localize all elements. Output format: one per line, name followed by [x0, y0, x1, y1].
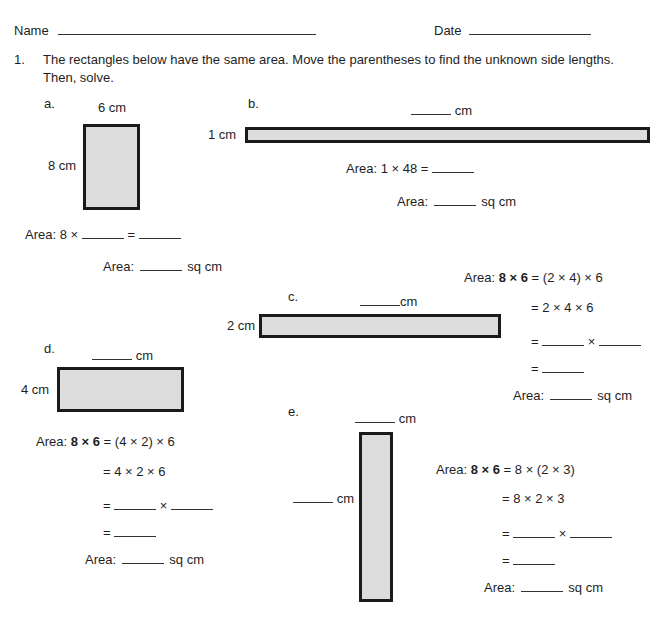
- part-d-line-4: =: [103, 524, 156, 541]
- part-e-blank-factor-2[interactable]: [570, 525, 612, 538]
- part-d-line1-rest: = (4 × 2) × 6: [104, 434, 175, 449]
- part-e-times: ×: [559, 526, 567, 541]
- part-b-area-eq: Area: 1 × 48 =: [346, 161, 428, 176]
- part-b-area-equation: Area: 1 × 48 =: [346, 160, 474, 177]
- date-label: Date: [434, 23, 461, 38]
- part-a-blank-factor[interactable]: [82, 226, 124, 239]
- part-e-area-label: Area:: [484, 580, 515, 595]
- part-c-blank-length[interactable]: [360, 293, 400, 306]
- part-a-blank-area[interactable]: [140, 258, 182, 271]
- part-b-left-side: 1 cm: [208, 127, 236, 143]
- part-c-top-side: cm: [360, 293, 417, 310]
- part-e-blank-width[interactable]: [355, 410, 395, 423]
- part-d-blank-area[interactable]: [122, 551, 164, 564]
- part-d-top-side: cm: [92, 347, 153, 364]
- part-a-area-answer: Area: sq cm: [103, 258, 222, 275]
- part-a-unit: sq cm: [187, 259, 222, 274]
- part-c-eq: =: [531, 334, 539, 349]
- part-d-line-3: = ×: [103, 497, 213, 514]
- part-d-blank-length[interactable]: [92, 347, 132, 360]
- name-field: Name: [14, 22, 316, 39]
- part-d-eq: =: [103, 498, 111, 513]
- part-e-eq: =: [502, 526, 510, 541]
- part-a-blank-product[interactable]: [139, 226, 181, 239]
- part-d-area-answer: Area: sq cm: [85, 551, 204, 568]
- part-e-blank-area[interactable]: [521, 579, 563, 592]
- part-c-eq-2: =: [531, 361, 539, 376]
- part-c-line-3: = ×: [531, 333, 641, 350]
- part-c-line1-rest: = (2 × 4) × 6: [532, 270, 603, 285]
- part-e-left-side: cm: [293, 490, 354, 507]
- part-e-line1-rest: = 8 × (2 × 3): [504, 462, 575, 477]
- part-a-left-side: 8 cm: [48, 158, 76, 174]
- part-c-blank-factor-1[interactable]: [542, 333, 584, 346]
- problem-number: 1.: [14, 52, 25, 68]
- part-c-blank-product[interactable]: [542, 360, 584, 373]
- part-d-area-label: Area:: [85, 552, 116, 567]
- part-e-blank-factor-1[interactable]: [513, 525, 555, 538]
- part-d-blank-factor-2[interactable]: [171, 497, 213, 510]
- name-label: Name: [14, 23, 49, 38]
- date-blank[interactable]: [469, 22, 591, 35]
- part-e-area-prefix: Area:: [436, 462, 467, 477]
- instruction-line-2: Then, solve.: [43, 70, 114, 86]
- part-d-times: ×: [160, 498, 168, 513]
- part-a-equals: =: [127, 227, 135, 242]
- part-e-blank-product[interactable]: [513, 552, 555, 565]
- part-d-unit: sq cm: [169, 552, 204, 567]
- part-c-label: c.: [288, 289, 298, 305]
- part-b-unit: sq cm: [481, 194, 516, 209]
- part-c-times: ×: [588, 334, 596, 349]
- part-a-label: a.: [44, 96, 55, 112]
- part-b-area-answer: Area: sq cm: [397, 193, 516, 210]
- part-c-left-side: 2 cm: [227, 318, 255, 334]
- part-a-area-label: Area:: [103, 259, 134, 274]
- part-d-top-unit: cm: [136, 348, 153, 363]
- part-c-area-prefix: Area:: [464, 270, 495, 285]
- part-e-line-3: = ×: [502, 525, 612, 542]
- part-b-blank-product[interactable]: [432, 160, 474, 173]
- part-b-blank-area[interactable]: [434, 193, 476, 206]
- date-field: Date: [434, 22, 591, 39]
- part-e-eq-2: =: [502, 553, 510, 568]
- part-a-top-side: 6 cm: [98, 100, 126, 116]
- part-d-blank-product[interactable]: [114, 524, 156, 537]
- rectangle-d: [57, 367, 184, 412]
- part-c-unit: sq cm: [597, 388, 632, 403]
- part-e-line-2: = 8 × 2 × 3: [502, 491, 565, 507]
- part-c-line-2: = 2 × 4 × 6: [531, 300, 594, 316]
- part-e-area-answer: Area: sq cm: [484, 579, 603, 596]
- part-c-top-unit: cm: [400, 294, 417, 309]
- part-d-left-side: 4 cm: [21, 382, 49, 398]
- part-e-unit: sq cm: [568, 580, 603, 595]
- rectangle-a: [83, 124, 140, 210]
- rectangle-c: [259, 314, 501, 338]
- part-e-line-1: Area: 8 × 6 = 8 × (2 × 3): [436, 462, 575, 478]
- rectangle-e: [359, 432, 393, 602]
- part-a-area-equation: Area: 8 × =: [25, 226, 181, 243]
- part-d-eq-2: =: [103, 525, 111, 540]
- rectangle-b: [245, 127, 650, 143]
- part-d-blank-factor-1[interactable]: [114, 497, 156, 510]
- part-c-area-answer: Area: sq cm: [513, 387, 632, 404]
- part-e-left-unit: cm: [337, 491, 354, 506]
- part-c-line-4: =: [531, 360, 584, 377]
- name-blank[interactable]: [58, 22, 316, 35]
- part-c-blank-area[interactable]: [550, 387, 592, 400]
- part-e-bold-expr: 8 × 6: [471, 462, 500, 477]
- part-e-top-unit: cm: [399, 411, 416, 426]
- part-a-area-prefix: Area: 8 ×: [25, 227, 78, 242]
- part-e-blank-length[interactable]: [293, 490, 333, 503]
- instruction-line-1: The rectangles below have the same area.…: [43, 52, 614, 68]
- part-b-top-unit: cm: [455, 103, 472, 118]
- part-b-label: b.: [248, 96, 259, 112]
- part-c-bold-expr: 8 × 6: [499, 270, 528, 285]
- part-e-line-4: =: [502, 552, 555, 569]
- part-c-blank-factor-2[interactable]: [599, 333, 641, 346]
- part-d-label: d.: [44, 341, 55, 357]
- part-c-area-label: Area:: [513, 388, 544, 403]
- part-d-bold-expr: 8 × 6: [71, 434, 100, 449]
- part-b-area-label: Area:: [397, 194, 428, 209]
- part-e-label: e.: [288, 404, 299, 420]
- part-b-blank-length[interactable]: [411, 102, 451, 115]
